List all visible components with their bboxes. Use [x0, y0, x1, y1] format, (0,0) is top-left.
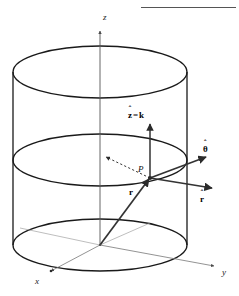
equals-sign: = [132, 110, 139, 120]
x-axis-tick-dot [50, 270, 53, 273]
z-hat-glyph: ˆ z [128, 111, 132, 120]
x-axis-line [51, 245, 100, 271]
unit-vector-triad [50, 124, 212, 272]
point-label-p: P [138, 165, 144, 174]
origin-marker [99, 244, 101, 246]
hat-accent-r: ˆ [201, 190, 203, 197]
unit-vector-r-hat [150, 178, 212, 188]
unit-vector-theta-hat [150, 157, 206, 178]
r-hat-glyph: ˆ r [200, 195, 204, 204]
hat-accent-theta: ˆ [204, 140, 206, 147]
y-axis-line [100, 245, 214, 266]
vector-label-r-hat: ˆ r [200, 195, 204, 204]
axis-label-y: y [222, 268, 226, 277]
vector-label-z-hat-equals-k: ˆ z =k [128, 111, 144, 120]
axis-label-z: z [103, 13, 107, 22]
theta-hat-glyph: ˆ θ [203, 145, 208, 154]
point-p-marker [148, 176, 152, 180]
vector-label-r: r [129, 188, 133, 197]
axis-label-x: x [35, 277, 39, 286]
base-radius-helper-left [20, 228, 100, 245]
cylindrical-coordinates-figure: z x y P r ˆ z =k ˆ θ ˆ r [0, 0, 239, 296]
position-vector-r [100, 179, 149, 245]
vector-label-theta-hat: ˆ θ [203, 145, 208, 154]
k-vector-glyph: k [139, 111, 144, 120]
hat-accent-z: ˆ [129, 106, 131, 113]
